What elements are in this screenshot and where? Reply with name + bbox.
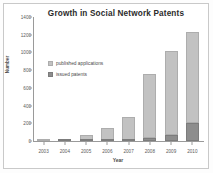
chart-legend: published applicationsissued patents — [48, 60, 103, 82]
x-tick-label: 2009 — [166, 149, 176, 154]
y-tick-label: 400 — [5, 103, 31, 108]
y-tick-label: 1400 — [5, 15, 31, 20]
x-tick-label: 2005 — [81, 149, 91, 154]
bar-2009 — [165, 51, 178, 141]
bar-segment-issued-patents — [143, 138, 156, 141]
y-tick-label: 200 — [5, 121, 31, 126]
bar-2005 — [80, 135, 93, 141]
y-tick-label: 600 — [5, 85, 31, 90]
bar-segment-issued-patents — [58, 139, 71, 141]
y-tick-mark — [29, 123, 32, 124]
y-tick-mark — [29, 87, 32, 88]
bar-segment-issued-patents — [165, 135, 178, 141]
bar-2003 — [37, 140, 50, 141]
y-tick-mark — [29, 52, 32, 53]
x-axis-label: Year — [33, 157, 203, 163]
y-tick-mark — [29, 34, 32, 35]
bar-2010 — [186, 32, 199, 141]
bar-segment-issued-patents — [80, 139, 93, 141]
x-tick-mark — [171, 142, 172, 145]
legend-item-apps: published applications — [48, 60, 103, 66]
bar-segment-published-applications — [165, 51, 178, 136]
x-tick-label: 2007 — [124, 149, 134, 154]
x-tick-label: 2003 — [39, 149, 49, 154]
y-axis-label: Number — [5, 45, 10, 85]
x-tick-label: 2008 — [145, 149, 155, 154]
y-tick-mark — [29, 17, 32, 18]
x-tick-label: 2006 — [102, 149, 112, 154]
x-tick-mark — [64, 142, 65, 145]
x-tick-mark — [128, 142, 129, 145]
y-tick-label: 0 — [5, 139, 31, 144]
x-tick-label: 2004 — [60, 149, 70, 154]
bar-2008 — [143, 74, 156, 141]
bar-segment-issued-patents — [101, 139, 114, 141]
bar-segment-published-applications — [143, 74, 156, 139]
legend-swatch-icon — [48, 61, 53, 66]
bar-segment-issued-patents — [122, 139, 135, 141]
y-tick-mark — [29, 141, 32, 142]
bar-2004 — [58, 140, 71, 141]
bar-segment-published-applications — [186, 32, 199, 123]
bar-segment-published-applications — [37, 139, 50, 141]
x-tick-label: 2010 — [187, 149, 197, 154]
bar-2007 — [122, 117, 135, 141]
y-tick-mark — [29, 70, 32, 71]
x-tick-mark — [149, 142, 150, 145]
chart-container: Growth in Social Network Patents 0200400… — [0, 0, 213, 173]
legend-item-issued: issued patents — [48, 71, 103, 77]
legend-label: published applications — [56, 61, 103, 66]
x-tick-mark — [86, 142, 87, 145]
legend-label: issued patents — [56, 72, 87, 77]
x-axis-ticks: 20032004200520062007200820092010 — [33, 142, 203, 154]
x-tick-mark — [43, 142, 44, 145]
x-tick-mark — [107, 142, 108, 145]
y-tick-label: 1200 — [5, 32, 31, 37]
bar-segment-published-applications — [122, 117, 135, 140]
x-tick-mark — [192, 142, 193, 145]
bar-2006 — [101, 128, 114, 141]
legend-swatch-icon — [48, 72, 53, 77]
y-tick-mark — [29, 105, 32, 106]
bar-segment-issued-patents — [186, 123, 199, 141]
